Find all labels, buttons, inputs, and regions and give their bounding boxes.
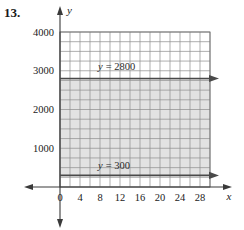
x-tick-label: 8	[97, 192, 102, 203]
x-axis-tick-labels: 0481216202428	[57, 192, 205, 203]
boundary-line-arrow	[209, 75, 219, 82]
line-label-upper: y= 2800	[97, 61, 135, 72]
figure-container: 13. y x 0481216202428 1000200030004000	[0, 0, 244, 230]
x-tick-label: 24	[175, 192, 186, 203]
y-tick-label: 2000	[33, 104, 54, 115]
x-tick-label: 0	[57, 192, 62, 203]
y-tick-label: 4000	[33, 27, 54, 38]
x-axis-arrow-left	[24, 184, 33, 190]
shaded-solution-region	[60, 79, 210, 176]
y-tick-label: 3000	[33, 65, 54, 76]
x-axis-label: x	[226, 190, 232, 202]
x-tick-label: 20	[155, 192, 166, 203]
y-axis-arrow-down	[57, 219, 63, 228]
boundary-line-arrow	[209, 172, 219, 179]
x-tick-label: 4	[77, 192, 83, 203]
x-tick-label: 16	[135, 192, 146, 203]
y-axis-label: y	[66, 4, 72, 16]
x-tick-label: 28	[195, 192, 206, 203]
coordinate-plot: y x 0481216202428 1000200030004000 y= 28…	[0, 0, 244, 230]
y-tick-label: 1000	[33, 143, 54, 154]
line-label-lower: y= 300	[97, 160, 130, 171]
y-axis-tick-labels: 1000200030004000	[33, 27, 54, 154]
x-tick-label: 12	[115, 192, 126, 203]
y-axis-arrow-up	[57, 6, 63, 15]
